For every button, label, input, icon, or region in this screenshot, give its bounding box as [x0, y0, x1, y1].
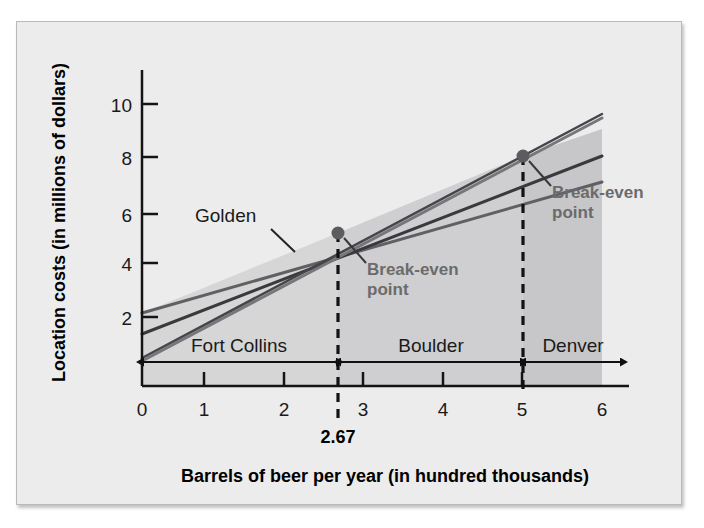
golden-label: Golden — [195, 205, 256, 226]
x-axis-title: Barrels of beer per year (in hundred tho… — [181, 466, 589, 486]
location-cost-crossover-chart: 10 8 6 4 2 0 1 2 3 4 5 6 — [17, 22, 681, 504]
breakeven-x-value-label: 2.67 — [320, 427, 355, 447]
region-labels: Fort Collins Boulder Denver — [191, 335, 604, 356]
y-tick-label-10: 10 — [111, 95, 132, 116]
x-tick-label-3: 3 — [358, 399, 369, 420]
breakeven-1-label-line2: point — [367, 280, 409, 299]
golden-leader-line — [271, 229, 295, 252]
breakeven-2-label-line2: point — [552, 203, 594, 222]
x-tick-label-5: 5 — [517, 399, 528, 420]
y-tick-labels: 10 8 6 4 2 — [111, 95, 133, 329]
x-tick-label-1: 1 — [199, 399, 210, 420]
figure-frame: 10 8 6 4 2 0 1 2 3 4 5 6 — [16, 21, 682, 505]
x-tick-labels: 0 1 2 3 4 5 6 — [137, 399, 608, 420]
figure-page: 10 8 6 4 2 0 1 2 3 4 5 6 — [0, 0, 704, 528]
x-tick-label-6: 6 — [597, 399, 608, 420]
region-label-boulder: Boulder — [398, 335, 464, 356]
x-tick-label-4: 4 — [438, 399, 449, 420]
y-tick-label-4: 4 — [121, 254, 132, 275]
breakeven-1-marker — [332, 227, 345, 240]
breakeven-2-label-line1: Break-even — [552, 183, 644, 202]
y-tick-label-2: 2 — [121, 308, 132, 329]
y-axis-title: Location costs (in millions of dollars) — [49, 63, 69, 382]
region-label-fort-collins: Fort Collins — [191, 335, 287, 356]
y-tick-label-8: 8 — [121, 148, 132, 169]
golden-callout: Golden — [195, 205, 295, 252]
y-tick-label-6: 6 — [121, 205, 132, 226]
x-tick-label-2: 2 — [279, 399, 290, 420]
breakeven-1-label-line1: Break-even — [367, 260, 459, 279]
x-tick-label-0: 0 — [137, 399, 148, 420]
region-label-denver: Denver — [542, 335, 604, 356]
breakeven-2-marker — [517, 150, 530, 163]
